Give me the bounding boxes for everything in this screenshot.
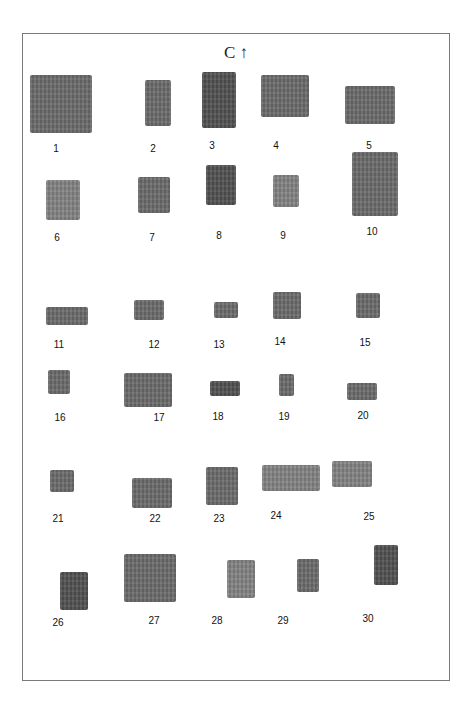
papyrus-fragment-1 (30, 75, 92, 133)
papyrus-fragment-23 (206, 467, 238, 505)
fragment-label: 4 (264, 140, 288, 151)
papyrus-fragment-18 (210, 381, 240, 396)
fragment-label: 28 (205, 615, 229, 626)
fragment-label: 21 (46, 513, 70, 524)
papyrus-fragment-21 (50, 470, 74, 492)
papyrus-fragment-11 (46, 307, 88, 325)
papyrus-fragment-3 (202, 72, 236, 128)
fragment-label: 3 (200, 140, 224, 151)
papyrus-fragment-19 (279, 374, 294, 396)
papyrus-fragment-10 (352, 152, 398, 216)
running-head: · · · · · · · · (195, 0, 275, 4)
papyrus-fragment-22 (132, 478, 172, 508)
fragment-label: 29 (271, 615, 295, 626)
papyrus-fragment-16 (48, 370, 70, 394)
fragment-label: 5 (357, 140, 381, 151)
papyrus-fragment-5 (345, 86, 395, 124)
fragment-label: 6 (45, 232, 69, 243)
papyrus-fragment-24 (262, 465, 320, 491)
fragment-label: 9 (271, 230, 295, 241)
fragment-label: 13 (207, 339, 231, 350)
fragment-label: 30 (356, 613, 380, 624)
papyrus-fragment-28 (227, 560, 255, 598)
fragment-label: 11 (47, 339, 71, 350)
papyrus-fragment-29 (297, 559, 319, 592)
fragment-label: 18 (206, 411, 230, 422)
papyrus-fragment-9 (273, 175, 299, 207)
papyrus-fragment-17 (124, 373, 172, 407)
fragment-label: 15 (353, 337, 377, 348)
fragment-label: 2 (141, 143, 165, 154)
papyrus-fragment-4 (261, 75, 309, 117)
fragment-label: 20 (351, 410, 375, 421)
papyrus-fragment-13 (214, 302, 238, 318)
papyrus-fragment-30 (374, 545, 398, 585)
fragment-label: 1 (44, 143, 68, 154)
plate-title: C ↑ (23, 43, 449, 63)
fragment-label: 23 (207, 513, 231, 524)
papyrus-fragment-25 (332, 461, 372, 487)
fragment-label: 27 (142, 615, 166, 626)
papyrus-fragment-12 (134, 300, 164, 320)
fragment-label: 19 (272, 411, 296, 422)
papyrus-fragment-6 (46, 180, 80, 220)
papyrus-fragment-20 (347, 383, 377, 400)
fragment-label: 24 (264, 510, 288, 521)
fragment-label: 14 (268, 336, 292, 347)
papyrus-fragment-26 (60, 572, 88, 610)
papyrus-fragment-15 (356, 293, 380, 318)
papyrus-fragment-2 (145, 80, 171, 126)
papyrus-fragment-7 (138, 177, 170, 213)
papyrus-fragment-14 (273, 292, 301, 319)
fragment-label: 17 (147, 412, 171, 423)
fragment-label: 26 (46, 617, 70, 628)
fragment-label: 12 (142, 339, 166, 350)
papyrus-fragment-8 (206, 165, 236, 205)
fragment-label: 8 (207, 230, 231, 241)
papyrus-fragment-27 (124, 554, 176, 602)
fragment-label: 16 (48, 412, 72, 423)
fragment-label: 25 (357, 511, 381, 522)
fragment-label: 22 (143, 513, 167, 524)
fragment-label: 7 (140, 232, 164, 243)
fragment-label: 10 (360, 226, 384, 237)
